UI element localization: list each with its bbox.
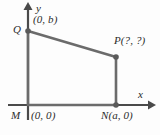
point-coord-m: (0, 0) <box>31 110 55 121</box>
vertex-dot-n <box>113 102 119 108</box>
coordinate-geometry-figure: y x Q (0, b) P(?, ?) M (0, 0) N(a, 0) <box>0 0 160 135</box>
side-qp <box>28 31 116 57</box>
vertex-dot-p <box>113 54 119 60</box>
point-coord-q: (0, b) <box>33 14 57 25</box>
vertex-dot-q <box>25 28 31 34</box>
figure-canvas <box>0 0 160 135</box>
x-axis-label: x <box>138 89 143 100</box>
y-axis-arrow-icon <box>24 2 33 10</box>
point-label-q: Q <box>13 24 21 35</box>
point-label-p: P(?, ?) <box>114 35 145 46</box>
point-label-m: M <box>11 110 20 121</box>
point-label-n: N(a, 0) <box>101 110 133 121</box>
x-axis-arrow-icon <box>148 101 156 110</box>
